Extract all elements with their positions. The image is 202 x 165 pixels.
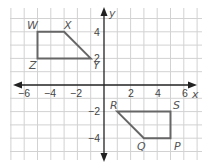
vertex-label-x: X: [63, 19, 72, 32]
y-tick-label: −2: [88, 105, 100, 117]
x-axis-label: x: [191, 88, 199, 101]
coordinate-plane: y x −6 −4 −2 2 4 6 4 2 −2 −4 W X Y Z R S…: [0, 0, 202, 165]
vertex-label-w: W: [27, 19, 39, 32]
vertex-label-q: Q: [137, 140, 146, 153]
x-tick-label: 2: [128, 87, 134, 99]
y-axis-arrow-up: [101, 7, 108, 16]
vertex-label-p: P: [174, 140, 181, 153]
y-axis-label: y: [108, 7, 116, 20]
vertex-label-s: S: [173, 99, 180, 112]
x-tick-label: −2: [70, 87, 82, 99]
x-tick-label: −6: [18, 87, 30, 99]
vertex-label-r: R: [110, 99, 118, 112]
y-tick-label: −4: [88, 132, 100, 144]
y-tick-label: 4: [94, 26, 100, 38]
x-tick-label: −4: [44, 87, 56, 99]
x-tick-label: 4: [155, 87, 161, 99]
y-axis-arrow-down: [101, 153, 108, 162]
x-tick-label: 6: [182, 87, 188, 99]
vertex-label-z: Z: [28, 59, 37, 72]
